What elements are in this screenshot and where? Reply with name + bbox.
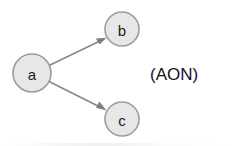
node-a[interactable]: a xyxy=(13,54,51,92)
edge-a-to-c xyxy=(49,82,107,111)
aon-network-diagram: a b c (AON) xyxy=(0,0,232,146)
diagram-canvas: a b c (AON) xyxy=(0,0,232,146)
bottom-scan-artifact xyxy=(0,143,232,146)
diagram-caption: (AON) xyxy=(150,65,198,84)
node-b[interactable]: b xyxy=(105,12,139,46)
node-c[interactable]: c xyxy=(105,102,139,136)
arrowhead-to-c xyxy=(96,101,107,110)
edge-a-to-b xyxy=(49,38,107,66)
edge-a-to-c-line xyxy=(49,82,101,108)
arrowhead-to-b xyxy=(96,38,107,45)
node-a-label: a xyxy=(28,66,37,83)
node-c-label: c xyxy=(118,112,126,129)
edge-a-to-b-line xyxy=(49,41,101,66)
node-b-label: b xyxy=(118,22,126,39)
